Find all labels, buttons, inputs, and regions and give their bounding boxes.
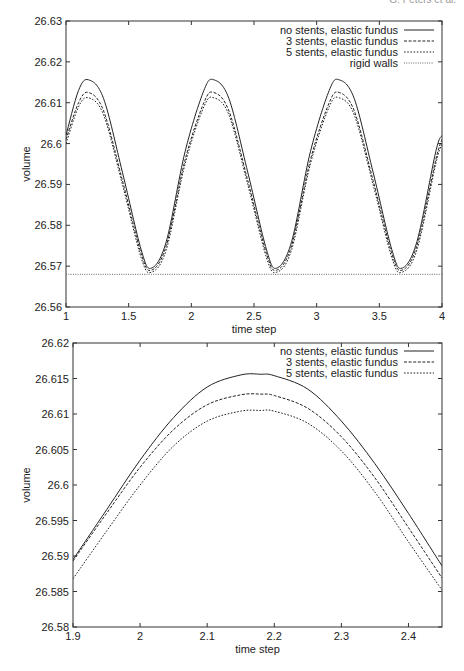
y-tick-label: 26.61 — [34, 97, 62, 109]
chart-bottom: 26.5826.58526.5926.59526.626.60526.6126.… — [0, 335, 464, 671]
x-tick-label: 1.9 — [65, 630, 80, 642]
x-tick-label: 4 — [439, 310, 445, 322]
y-tick-label: 26.58 — [34, 219, 62, 231]
y-tick-label: 26.59 — [34, 178, 62, 190]
x-axis-label: time step — [235, 643, 280, 655]
x-tick-label: 1 — [63, 310, 69, 322]
x-tick-label: 2.2 — [267, 630, 282, 642]
x-tick-label: 2.4 — [401, 630, 416, 642]
y-tick-label: 26.61 — [41, 408, 69, 420]
y-tick-label: 26.615 — [35, 373, 69, 385]
y-tick-label: 26.595 — [35, 515, 69, 527]
y-tick-label: 26.63 — [34, 15, 62, 27]
series-line — [73, 374, 442, 566]
y-tick-label: 26.57 — [34, 260, 62, 272]
x-tick-label: 3.5 — [372, 310, 387, 322]
series-line — [66, 92, 442, 271]
y-tick-label: 26.59 — [41, 550, 69, 562]
y-tick-label: 26.56 — [34, 301, 62, 313]
x-tick-label: 2 — [188, 310, 194, 322]
y-tick-label: 26.62 — [41, 337, 69, 349]
series-line — [73, 394, 442, 578]
y-tick-label: 26.605 — [35, 444, 69, 456]
x-axis-label: time step — [232, 323, 277, 335]
y-tick-label: 26.585 — [35, 586, 69, 598]
legend-label: rigid walls — [350, 57, 399, 69]
x-tick-label: 2 — [137, 630, 143, 642]
series-line — [66, 79, 442, 268]
chart-top: 26.5626.5726.5826.5926.626.6126.6226.631… — [0, 0, 464, 335]
y-axis-label: volume — [20, 467, 32, 502]
series-line — [66, 97, 442, 273]
x-tick-label: 1.5 — [121, 310, 136, 322]
plot-frame — [73, 343, 442, 627]
y-tick-label: 26.62 — [34, 56, 62, 68]
x-tick-label: 2.3 — [334, 630, 349, 642]
y-axis-label: volume — [20, 146, 32, 181]
legend-label: 5 stents, elastic fundus — [286, 367, 398, 379]
x-tick-label: 2.5 — [246, 310, 261, 322]
series-line — [73, 410, 442, 590]
x-tick-label: 3 — [314, 310, 320, 322]
y-tick-label: 26.6 — [48, 479, 69, 491]
y-tick-label: 26.6 — [41, 138, 62, 150]
x-tick-label: 2.1 — [200, 630, 215, 642]
